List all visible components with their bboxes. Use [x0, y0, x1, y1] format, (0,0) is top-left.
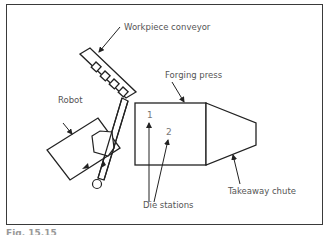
takeaway-chute-label: Takeaway chute [228, 187, 296, 196]
takeaway-chute-shape [206, 103, 256, 165]
conveyor-label: Workpiece conveyor [124, 23, 210, 32]
robot-leader-arrow [63, 123, 72, 134]
chute-leader-arrow [233, 155, 240, 184]
station-1-number: 1 [147, 111, 153, 120]
die-stations-label: Die stations [143, 201, 194, 210]
figure-caption: Fig. 15.15 [6, 229, 57, 235]
conveyor-shape [80, 48, 136, 98]
forging-press-label: Forging press [165, 71, 222, 80]
press-leader-arrow [172, 82, 184, 102]
conveyor-leader-arrow [99, 27, 120, 52]
station-2-number: 2 [166, 128, 172, 137]
robot-label: Robot [58, 96, 83, 105]
